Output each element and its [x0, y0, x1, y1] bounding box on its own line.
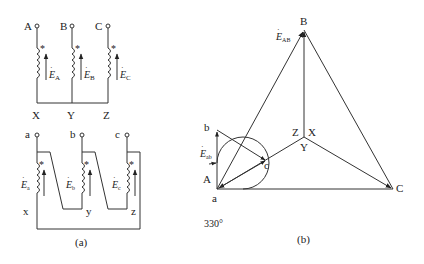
- label-y: y: [86, 205, 92, 217]
- dot-accent: ·: [50, 63, 53, 72]
- terminal-c-icon: [125, 133, 129, 137]
- polarity-mark: *: [111, 43, 116, 54]
- label-c: c: [115, 128, 120, 140]
- label-B: B: [60, 20, 67, 32]
- label-A: A: [24, 20, 32, 32]
- label-a: a: [212, 192, 217, 204]
- phasor-EAB: [217, 32, 303, 189]
- label-Y: Y: [300, 141, 308, 153]
- terminal-a-icon: [35, 133, 39, 137]
- label-a: a: [25, 128, 30, 140]
- terminal-B-icon: [70, 24, 74, 28]
- label-X: X: [308, 126, 316, 138]
- caption-a: (a): [75, 236, 88, 249]
- label-C: C: [95, 20, 102, 32]
- polarity-mark: *: [84, 159, 89, 170]
- panel-b-phasor: [209, 30, 393, 189]
- terminal-A-icon: [35, 24, 39, 28]
- label-C: C: [396, 182, 403, 194]
- caption-b: (b): [297, 233, 310, 246]
- dot-accent: ·: [201, 142, 204, 151]
- dot-accent: ·: [121, 63, 124, 72]
- label-c: c: [264, 159, 269, 171]
- label-Z: Z: [292, 126, 299, 138]
- angle-label: 330°: [204, 218, 223, 229]
- polarity-mark: *: [129, 159, 134, 170]
- label-X: X: [32, 109, 40, 121]
- dot-accent: ·: [67, 173, 70, 182]
- label-b: b: [70, 128, 76, 140]
- polarity-mark: *: [40, 43, 45, 54]
- dot-accent: ·: [22, 173, 25, 182]
- label-B: B: [300, 15, 307, 27]
- panel-b-labels: B EAB · Z X Y C A a b c Eab · 330° (b): [199, 15, 403, 246]
- label-Z: Z: [103, 109, 110, 121]
- dot-accent: ·: [277, 25, 280, 34]
- triangle-BC: [304, 30, 393, 189]
- transformer-connection-diagram: A B C * * * EA · EB · EC · X Y Z: [0, 0, 424, 264]
- polarity-mark: *: [75, 43, 80, 54]
- panel-a-primary-labels: A B C * * * EA · EB · EC · X Y Z: [24, 20, 131, 121]
- label-z: z: [131, 205, 136, 217]
- arc-arrow-icon: [209, 163, 216, 164]
- label-A: A: [203, 173, 211, 185]
- label-x: x: [23, 205, 29, 217]
- label-b: b: [204, 121, 210, 133]
- label-Y: Y: [67, 109, 75, 121]
- polarity-mark: *: [39, 159, 44, 170]
- terminal-b-icon: [80, 133, 84, 137]
- panel-a-primary: [35, 24, 117, 103]
- terminal-C-icon: [106, 24, 110, 28]
- dot-accent: ·: [113, 173, 116, 182]
- dot-accent: ·: [85, 63, 88, 72]
